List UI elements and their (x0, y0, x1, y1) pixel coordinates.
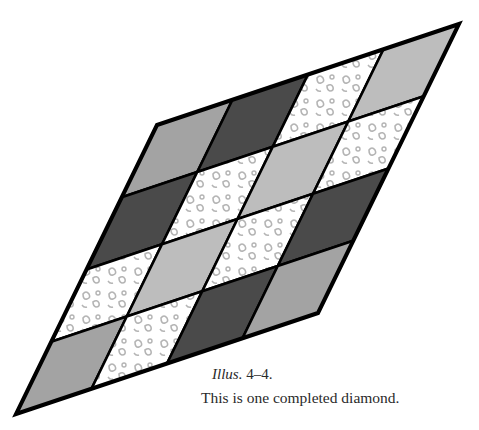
illustration-label-number: 4–4. (242, 366, 272, 382)
illustration-label: Illus. 4–4. (212, 366, 272, 383)
illustration-label-prefix: Illus. (212, 366, 242, 382)
diamond-cells (16, 24, 459, 414)
illustration-caption: This is one completed diamond. (201, 389, 399, 407)
